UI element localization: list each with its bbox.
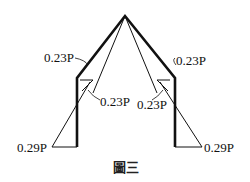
label-column-left-base: 0.29P (17, 140, 47, 155)
label-rafter-left: 0.23P (44, 50, 74, 65)
moment-diagram: 0.23P 0.23P 0.23P 0.23P 0.29P 0.29P 圖三 (0, 0, 250, 182)
moment-curve (52, 16, 202, 147)
label-column-right-base: 0.29P (204, 140, 234, 155)
label-column-right-top: 0.23P (137, 97, 167, 112)
label-rafter-right: 0.23P (176, 53, 206, 68)
figure-caption: 圖三 (113, 160, 139, 175)
label-column-left-top: 0.23P (100, 94, 130, 109)
